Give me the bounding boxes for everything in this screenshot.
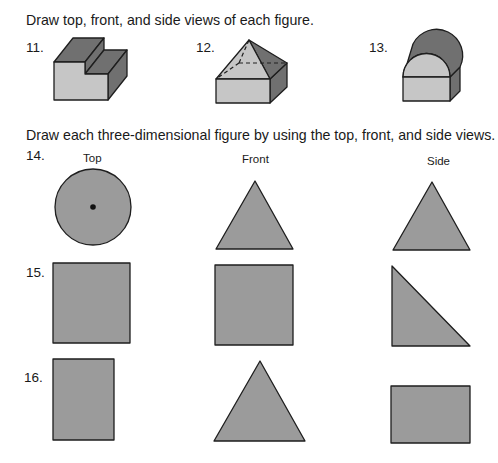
- ex16-top-view-rectangle: [53, 359, 114, 440]
- ex15-side-view-right-triangle: [392, 266, 470, 346]
- ex14-center-dot: [90, 204, 96, 210]
- figure-13-half-cylinder-prism: [403, 29, 463, 101]
- ex14-front-view-triangle: [216, 181, 293, 249]
- exercise-15-views: [53, 263, 470, 346]
- figure-12-pyramid-prism: [216, 40, 287, 103]
- ex16-side-view-rectangle: [391, 386, 470, 443]
- ex16-front-view-triangle: [214, 361, 305, 441]
- ex15-top-view-square: [53, 263, 130, 343]
- ex15-front-view-square: [215, 265, 293, 345]
- exercise-16-views: [53, 359, 470, 443]
- figure-11-step-prism: [54, 38, 127, 100]
- figures-canvas: [0, 0, 498, 463]
- ex14-side-view-triangle: [393, 182, 470, 250]
- exercise-14-views: [55, 169, 470, 250]
